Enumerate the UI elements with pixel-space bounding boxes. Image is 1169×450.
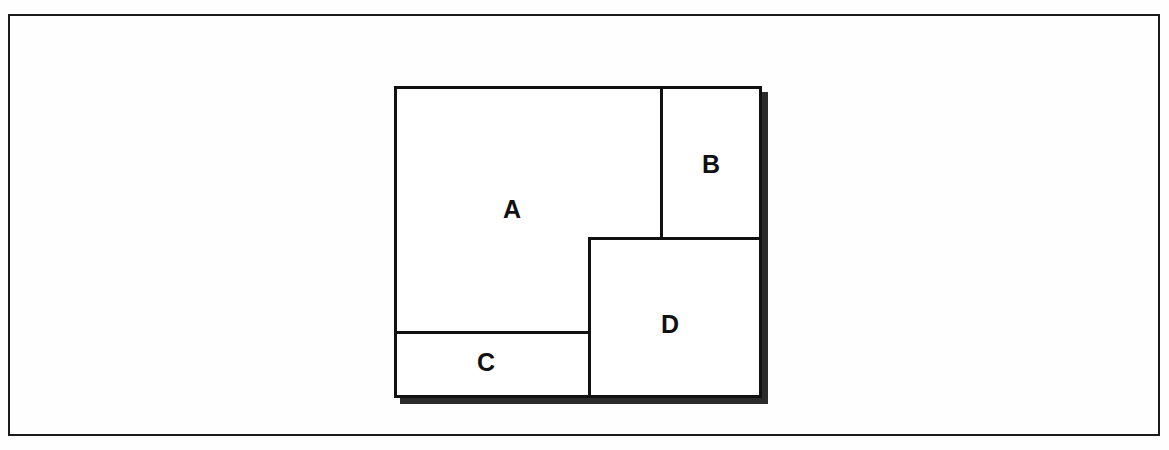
region-a-label: A: [503, 197, 522, 222]
region-d[interactable]: D: [588, 240, 759, 395]
divider-bd: [588, 237, 759, 240]
partitioned-block: A B D C: [394, 86, 762, 398]
figure-canvas: A B D C: [0, 0, 1169, 450]
divider-ac: [397, 331, 591, 334]
region-c-label: C: [477, 350, 496, 375]
region-c[interactable]: C: [397, 334, 588, 395]
region-d-label: D: [661, 312, 680, 337]
region-b[interactable]: B: [663, 89, 759, 237]
divider-cd: [588, 237, 591, 395]
region-b-label: B: [702, 152, 721, 177]
divider-ab: [660, 89, 663, 240]
